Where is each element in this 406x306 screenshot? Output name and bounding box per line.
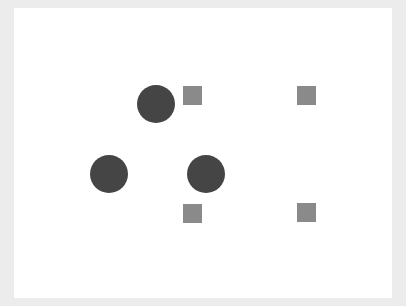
square-1: [183, 86, 202, 105]
square-4: [297, 203, 316, 222]
square-2: [297, 86, 316, 105]
circle-1: [137, 85, 175, 123]
diagram-canvas: [14, 8, 392, 298]
circle-3: [187, 155, 225, 193]
circle-2: [90, 155, 128, 193]
square-3: [183, 204, 202, 223]
